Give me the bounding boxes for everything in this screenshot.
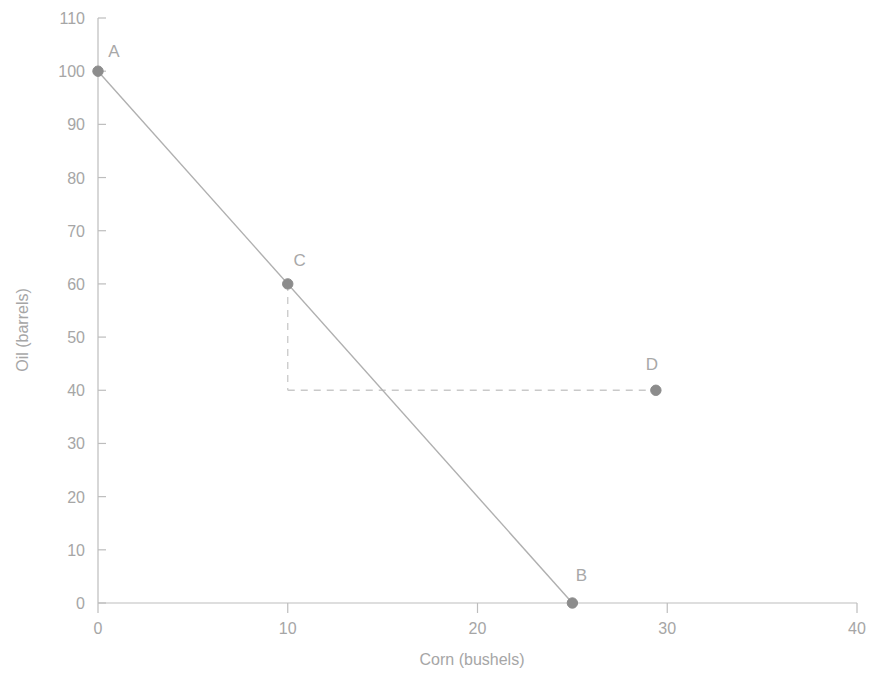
ppf-chart: 0102030405060708090100110 010203040 ABCD… bbox=[0, 0, 872, 678]
x-axis-title: Corn (bushels) bbox=[420, 651, 525, 668]
data-point-label-d: D bbox=[646, 355, 658, 374]
data-point-marker-d bbox=[651, 385, 661, 395]
ppf-line-series bbox=[98, 71, 572, 603]
dashed-guide-lines bbox=[288, 284, 656, 390]
ppf-line bbox=[98, 71, 572, 603]
y-tick-label: 100 bbox=[58, 63, 85, 80]
y-tick-label: 110 bbox=[59, 10, 85, 27]
y-tick-label: 50 bbox=[67, 329, 85, 346]
y-tick-label: 40 bbox=[67, 382, 85, 399]
y-tick-label: 80 bbox=[67, 170, 85, 187]
data-point-marker-a bbox=[93, 66, 103, 76]
y-axis-ticks: 0102030405060708090100110 bbox=[58, 10, 106, 612]
x-tick-label: 10 bbox=[279, 620, 297, 637]
chart-canvas: 0102030405060708090100110 010203040 ABCD… bbox=[0, 0, 872, 678]
y-tick-label: 0 bbox=[76, 595, 85, 612]
data-point-marker-c bbox=[283, 279, 293, 289]
data-point-label-b: B bbox=[576, 566, 587, 585]
y-tick-label: 20 bbox=[67, 489, 85, 506]
y-tick-label: 30 bbox=[67, 435, 85, 452]
y-tick-label: 60 bbox=[67, 276, 85, 293]
data-point-marker-b bbox=[567, 598, 577, 608]
data-point-label-c: C bbox=[294, 251, 306, 270]
y-tick-label: 70 bbox=[67, 223, 85, 240]
x-tick-label: 20 bbox=[469, 620, 487, 637]
y-tick-label: 10 bbox=[67, 542, 85, 559]
x-axis-ticks: 010203040 bbox=[94, 603, 866, 637]
axis-lines bbox=[98, 18, 857, 603]
y-tick-label: 90 bbox=[67, 116, 85, 133]
data-points: ABCD bbox=[93, 42, 661, 608]
x-tick-label: 30 bbox=[658, 620, 676, 637]
y-axis-title: Oil (barrels) bbox=[14, 288, 31, 372]
data-point-label-a: A bbox=[108, 42, 120, 61]
x-tick-label: 40 bbox=[848, 620, 866, 637]
x-tick-label: 0 bbox=[94, 620, 103, 637]
